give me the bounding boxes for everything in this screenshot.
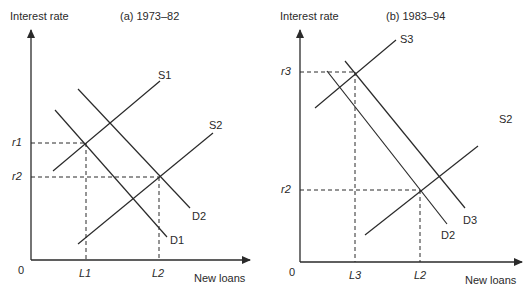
panel-b-x-tick-L3: L3 [349,270,361,281]
panel-b-x-tick-L2: L2 [414,270,426,281]
panel-a-y-axis-label: Interest rate [10,11,69,22]
panel-b-title: (b) 1983–94 [386,11,445,22]
panel-b-y-tick-r2: r2 [281,184,291,195]
panel-a-title: (a) 1973–82 [120,11,179,22]
panel-a-origin: 0 [18,265,24,276]
supply-curve-s2-b [365,146,478,235]
label-s2-b: S2 [499,114,512,125]
panel-a-axes [31,30,250,260]
label-s1: S1 [158,70,171,81]
panel-a-x-tick-L1: L1 [79,268,91,279]
demand-curve-d2-b [327,71,447,224]
panel-b-x-axis-label: New loans [465,275,516,286]
label-d3: D3 [463,215,477,226]
panel-b-y-tick-r3: r3 [281,66,291,77]
supply-curve-s2 [78,133,213,244]
panel-a-y-tick-r1: r1 [12,137,22,148]
panel-b-origin: 0 [289,267,295,278]
panel-a-x-axis-label: New loans [194,273,245,284]
panel-a-x-tick-L2: L2 [152,268,164,279]
panel-b-curves [315,40,478,235]
demand-curve-d3 [345,61,465,208]
label-d1: D1 [170,235,184,246]
label-d2-b: D2 [441,230,455,241]
panel-a-guides [31,143,159,260]
panel-a-curves [53,81,213,244]
panel-a-y-tick-r2: r2 [12,171,22,182]
demand-curve-d1 [55,110,167,237]
panel-b-axes [300,30,522,262]
label-s2: S2 [209,120,222,131]
diagram-canvas [0,0,532,291]
panel-b-y-axis-label: Interest rate [280,11,339,22]
label-d2: D2 [192,211,206,222]
label-s3: S3 [400,34,413,45]
demand-curve-d2 [78,89,190,208]
